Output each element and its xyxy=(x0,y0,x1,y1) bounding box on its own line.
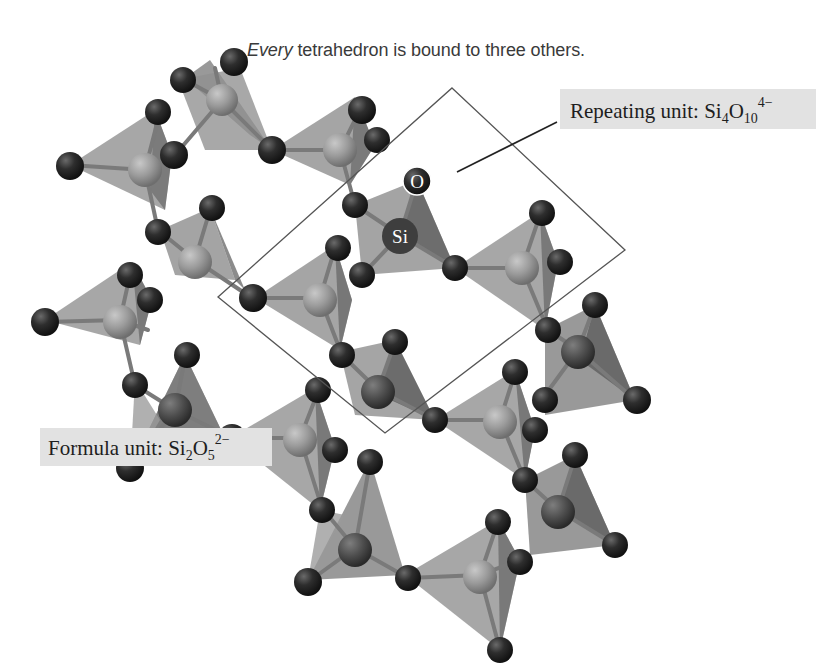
repeating-unit-leader-line xyxy=(457,122,557,172)
repeating-unit-o-subscript: 10 xyxy=(744,111,758,126)
repeating-unit-label: Repeating unit: Si4O104− xyxy=(560,89,816,129)
caption-text: tetrahedron is bound to three others. xyxy=(293,40,585,60)
formula-unit-o-subscript: 5 xyxy=(208,448,215,463)
formula-unit-label: Formula unit: Si2O52− xyxy=(40,428,272,466)
formula-unit-charge: 2− xyxy=(215,432,230,447)
labeled-silicon-atom: Si xyxy=(382,218,418,254)
repeating-unit-oxygen: O xyxy=(729,99,744,123)
labeled-oxygen-atom: O xyxy=(403,167,431,195)
svg-text:Si: Si xyxy=(392,226,408,247)
formula-unit-prefix: Formula unit: Si xyxy=(48,436,186,460)
formula-unit-oxygen: O xyxy=(193,436,208,460)
formula-unit-si-subscript: 2 xyxy=(186,448,193,463)
silicate-sheet-diagram: O Si Every tetrahedron is bound to three… xyxy=(0,0,832,663)
caption-emphasis: Every xyxy=(247,40,293,60)
repeating-unit-charge: 4− xyxy=(758,95,773,110)
svg-text:O: O xyxy=(410,171,424,192)
figure-caption: Every tetrahedron is bound to three othe… xyxy=(0,40,832,61)
repeating-unit-prefix: Repeating unit: Si xyxy=(570,99,722,123)
repeating-unit-si-subscript: 4 xyxy=(722,111,729,126)
